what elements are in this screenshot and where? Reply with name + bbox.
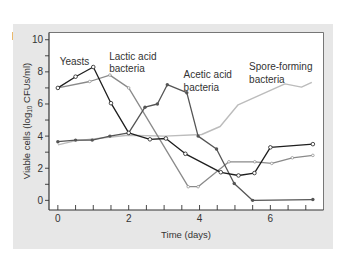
data-point [91, 138, 94, 141]
data-point [269, 146, 273, 150]
y-tick-label: 6 [37, 98, 43, 109]
x-tick-label: 0 [55, 213, 61, 224]
y-axis-title: Viable cells (log10 CFUs/ml) [21, 63, 33, 179]
data-point [143, 105, 146, 108]
line-chart: 02460246810 YeastsLactic acidbacteriaAce… [0, 0, 341, 255]
data-point [109, 101, 113, 105]
data-point [91, 65, 95, 69]
data-point [312, 154, 315, 157]
data-point [311, 198, 314, 201]
y-tick-label: 2 [37, 163, 43, 174]
y-tick-label: 8 [37, 66, 43, 77]
data-point [228, 161, 231, 164]
x-tick-label: 2 [126, 213, 132, 224]
data-point [237, 174, 241, 178]
data-point [233, 182, 236, 185]
data-point [253, 171, 257, 175]
data-point [184, 152, 188, 156]
series-annotation: Yeasts [60, 56, 90, 67]
data-point [74, 138, 77, 141]
data-point [156, 102, 159, 105]
data-point [187, 185, 190, 188]
data-point [88, 80, 91, 83]
y-tick-label: 0 [37, 195, 43, 206]
data-point [127, 131, 131, 135]
data-point [291, 156, 294, 159]
data-point [253, 161, 256, 164]
data-point [311, 142, 315, 146]
data-point [166, 83, 169, 86]
data-point [196, 134, 199, 137]
data-point [219, 170, 223, 174]
y-tick-label: 4 [37, 131, 43, 142]
data-point [56, 86, 60, 90]
data-point [148, 138, 152, 142]
data-point [197, 185, 200, 188]
data-point [74, 75, 78, 79]
data-point [164, 137, 168, 141]
x-axis-title: Time (days) [161, 229, 211, 240]
data-point [270, 162, 273, 165]
y-tick-label: 10 [32, 34, 44, 45]
data-point [56, 140, 59, 143]
x-tick-label: 6 [268, 213, 274, 224]
x-tick-label: 4 [197, 213, 203, 224]
data-point [251, 199, 254, 202]
data-point [108, 134, 111, 137]
data-point [127, 87, 130, 90]
data-point [215, 147, 218, 150]
